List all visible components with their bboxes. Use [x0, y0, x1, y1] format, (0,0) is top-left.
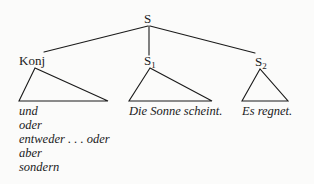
- node-konj-label: Konj: [19, 53, 45, 68]
- conjunction-item: sondern: [19, 160, 110, 174]
- edge-s-s2: [150, 26, 255, 53]
- conjunction-list: und oder entweder . . . oder aber sonder…: [19, 104, 110, 174]
- edge-s-konj: [44, 26, 148, 52]
- s1-triangle: [129, 68, 212, 101]
- node-konj: Konj: [19, 54, 45, 67]
- node-s1: S1: [144, 54, 156, 67]
- conjunction-item: entweder . . . oder: [19, 132, 110, 146]
- s1-leaf-sentence: Die Sonne scheint.: [129, 104, 222, 118]
- conjunction-item: oder: [19, 118, 110, 132]
- node-s-root: S: [144, 12, 151, 25]
- conjunction-item: und: [19, 104, 110, 118]
- node-s1-subscript: 1: [151, 60, 156, 70]
- konj-triangle: [19, 68, 108, 101]
- conjunction-item: aber: [19, 146, 110, 160]
- node-s-root-label: S: [144, 11, 151, 26]
- node-s2: S2: [255, 55, 267, 68]
- s2-triangle: [242, 69, 288, 101]
- node-s2-subscript: 2: [262, 61, 267, 71]
- s2-leaf-sentence: Es regnet.: [242, 104, 292, 118]
